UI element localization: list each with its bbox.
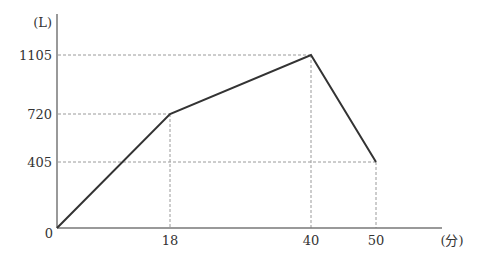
guide-lines <box>58 55 376 228</box>
x-tick-18: 18 <box>162 233 179 248</box>
line-chart: (L) 1105 720 405 0 18 40 50 (分) <box>0 0 478 262</box>
y-tick-405: 405 <box>27 155 52 170</box>
y-tick-720: 720 <box>27 107 52 122</box>
x-axis-unit: (分) <box>440 233 463 248</box>
data-line <box>57 55 376 228</box>
x-tick-50: 50 <box>368 233 385 248</box>
y-tick-1105: 1105 <box>19 48 52 63</box>
x-tick-40: 40 <box>303 233 320 248</box>
y-axis-unit: (L) <box>33 15 52 30</box>
origin-label: 0 <box>45 226 53 241</box>
